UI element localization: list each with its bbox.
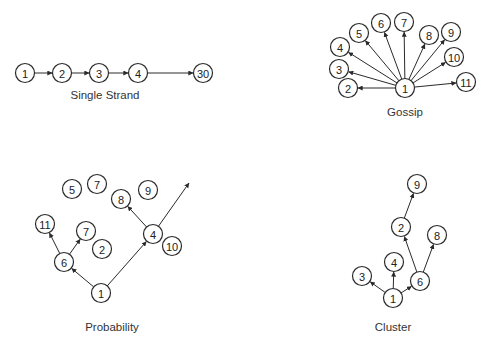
node-label: 1 (390, 293, 396, 305)
node-3: 3 (90, 64, 109, 83)
node-1: 1 (92, 284, 111, 303)
arrow-edge (401, 286, 411, 293)
node-label: 1 (98, 288, 104, 300)
node-label: 6 (417, 276, 423, 288)
node-9: 9 (139, 181, 158, 200)
node-9: 9 (408, 175, 427, 194)
node-label: 5 (356, 28, 362, 40)
node-2: 2 (93, 240, 112, 259)
node-11: 11 (36, 215, 55, 234)
node-8: 8 (112, 190, 131, 209)
arrow-edge (384, 32, 401, 79)
node-label: 1 (402, 83, 408, 95)
node-label: 6 (61, 257, 67, 269)
node-label: 5 (69, 184, 75, 196)
diagram-gossip: 1234567891011Gossip (330, 13, 476, 119)
node-8: 8 (428, 226, 447, 245)
node-6: 6 (372, 14, 391, 33)
diagram-probability: 5789117264101Probability (36, 175, 190, 334)
diagram-single-strand: 123430Single Strand (16, 64, 213, 102)
node-label: 2 (59, 68, 65, 80)
node-label: 7 (401, 17, 407, 29)
node-3: 3 (353, 267, 372, 286)
node-label: 4 (337, 42, 343, 54)
node-9: 9 (442, 23, 461, 42)
node-label: 2 (345, 83, 351, 95)
node-5: 5 (350, 24, 369, 43)
node-7: 7 (395, 13, 414, 32)
node-2: 2 (339, 79, 358, 98)
node-10: 10 (445, 48, 464, 67)
node-label: 2 (398, 222, 404, 234)
diagram-title-single-strand: Single Strand (70, 89, 139, 101)
node-label: 11 (460, 77, 471, 89)
node-label: 6 (378, 18, 384, 30)
arrow-edge (370, 282, 385, 293)
arrow-edge (404, 236, 417, 272)
node-label: 4 (391, 257, 397, 269)
arrow-edge (404, 193, 413, 218)
node-label: 11 (39, 219, 50, 231)
arrow-edge (69, 239, 80, 254)
node-label: 1 (22, 68, 28, 80)
node-4: 4 (129, 64, 148, 83)
node-5: 5 (63, 180, 82, 199)
diagram-title-gossip: Gossip (387, 106, 423, 118)
node-label: 8 (426, 30, 432, 42)
node-1: 1 (396, 79, 415, 98)
node-6: 6 (411, 272, 430, 291)
node-1: 1 (384, 289, 403, 308)
node-label: 2 (99, 244, 105, 256)
diagram-cluster: 9284361Cluster (353, 175, 447, 334)
node-label: 10 (448, 52, 460, 64)
node-1: 1 (16, 64, 35, 83)
node-label: 3 (96, 68, 102, 80)
node-7: 7 (88, 175, 107, 194)
arrow-edge (411, 40, 445, 81)
node-2: 2 (53, 64, 72, 83)
diagram-title-probability: Probability (85, 321, 139, 333)
diagram-title-cluster: Cluster (375, 321, 412, 333)
node-label: 10 (166, 241, 178, 253)
network-diagrams-canvas: 123430Single Strand 1234567891011Gossip … (0, 0, 489, 354)
node-4: 4 (144, 225, 163, 244)
nodes: 9284361 (353, 175, 447, 308)
node-label: 4 (135, 68, 141, 80)
nodes: 1234567891011 (330, 13, 476, 98)
node-label: 9 (414, 179, 420, 191)
node-label: 4 (150, 229, 156, 241)
arrow-edge (158, 183, 189, 226)
node-label: 3 (336, 64, 342, 76)
arrow-edge (365, 41, 398, 81)
node-8: 8 (420, 26, 439, 45)
node-30: 30 (194, 64, 213, 83)
node-label: 30 (197, 68, 209, 80)
arrow-edge (423, 244, 433, 272)
arrow-edge (414, 83, 456, 87)
arrow-edge (404, 32, 405, 79)
node-7: 7 (77, 222, 96, 241)
node-2: 2 (392, 218, 411, 237)
arrow-edge (107, 242, 146, 286)
arrow-edge (128, 206, 147, 227)
node-4: 4 (331, 38, 350, 57)
node-label: 9 (448, 27, 454, 39)
node-label: 8 (118, 194, 124, 206)
node-label: 7 (83, 226, 89, 238)
node-3: 3 (330, 60, 349, 79)
arrow-edge (49, 233, 59, 254)
nodes: 5789117264101 (36, 175, 182, 303)
node-label: 9 (145, 185, 151, 197)
arrow-edge (72, 268, 94, 286)
node-label: 8 (434, 230, 440, 242)
node-6: 6 (55, 253, 74, 272)
node-10: 10 (163, 237, 182, 256)
node-label: 7 (94, 179, 100, 191)
node-11: 11 (457, 73, 476, 92)
node-4: 4 (385, 253, 404, 272)
node-label: 3 (359, 271, 365, 283)
